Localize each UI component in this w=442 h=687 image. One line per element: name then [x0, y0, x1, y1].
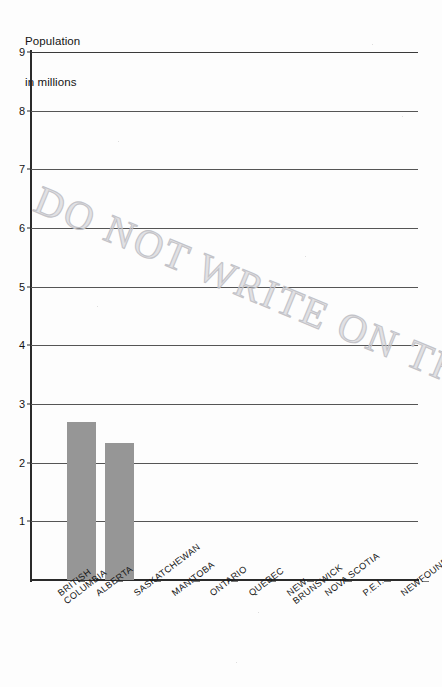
scan-speckle	[305, 256, 306, 257]
scan-speckle	[372, 44, 373, 45]
gridline-3: 3	[31, 404, 418, 405]
bar	[105, 443, 134, 580]
y-tick-mark-2	[27, 462, 31, 463]
y-tick-mark-5	[27, 286, 31, 287]
y-tick-label-1: 1	[19, 516, 25, 527]
axis-title-line1: Population	[25, 35, 80, 49]
gridline-6: 6	[31, 228, 418, 229]
chart-page: Population in millions 123456789 BRITISH…	[0, 0, 442, 687]
gridline-7: 7	[31, 169, 418, 170]
plot-area: 123456789	[31, 52, 418, 580]
y-tick-mark-7	[27, 169, 31, 170]
y-tick-label-5: 5	[19, 281, 25, 292]
gridline-9: 9	[31, 52, 418, 53]
scan-speckle	[118, 141, 119, 142]
scan-speckle	[97, 306, 98, 307]
gridline-5: 5	[31, 287, 418, 288]
y-tick-mark-1	[27, 521, 31, 522]
y-tick-label-2: 2	[19, 457, 25, 468]
gridline-8: 8	[31, 111, 418, 112]
scan-speckle	[258, 612, 259, 613]
y-tick-label-8: 8	[19, 105, 25, 116]
y-tick-mark-8	[27, 110, 31, 111]
y-tick-mark-6	[27, 228, 31, 229]
scan-speckle	[402, 116, 403, 117]
gridline-4: 4	[31, 345, 418, 346]
y-tick-label-9: 9	[19, 47, 25, 58]
bar	[67, 422, 96, 580]
y-tick-label-4: 4	[19, 340, 25, 351]
scan-speckle	[60, 200, 61, 201]
y-tick-label-7: 7	[19, 164, 25, 175]
y-tick-mark-3	[27, 404, 31, 405]
y-tick-mark-9	[27, 52, 31, 53]
y-tick-label-3: 3	[19, 399, 25, 410]
y-tick-label-6: 6	[19, 223, 25, 234]
y-tick-mark-4	[27, 345, 31, 346]
scan-speckle	[236, 662, 237, 663]
